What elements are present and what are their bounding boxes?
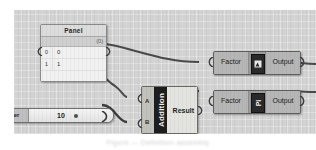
component-node-1[interactable]: Factor Output	[213, 51, 301, 75]
panel-node-title: Panel	[41, 25, 106, 37]
figure-caption: Figure — Definition assembly	[0, 136, 316, 150]
panel-output-port[interactable]	[105, 47, 112, 56]
component-node-2[interactable]: Factor Pi Output	[213, 90, 301, 114]
addition-node-title: Addition	[156, 93, 165, 127]
number-slider-label: ter	[14, 109, 29, 122]
pi-symbol-icon: Pi	[251, 93, 265, 113]
component-1-output-port[interactable]	[299, 57, 306, 66]
addition-input-a-port[interactable]	[136, 94, 143, 103]
addition-output-port[interactable]	[197, 106, 204, 115]
panel-node-count: (0)	[41, 37, 106, 47]
panel-row: 1 1	[41, 59, 106, 71]
node-editor-canvas[interactable]: Panel (0) 0 0 1 1 A	[14, 10, 316, 134]
addition-input-b-label: B	[145, 119, 149, 125]
addition-output-column: Result	[167, 87, 197, 133]
panel-row: 0 0	[41, 47, 106, 59]
component-1-output-label: Output	[265, 52, 300, 74]
component-2-mid-text: Pi	[255, 100, 262, 107]
addition-input-a-label: A	[145, 98, 149, 104]
number-slider-node[interactable]: ter 10	[14, 108, 114, 123]
component-1-input-label: Factor	[214, 52, 249, 74]
addition-output-label: Result	[173, 107, 194, 114]
component-2-output-label: Output	[265, 91, 300, 113]
panel-row-value: 0	[53, 47, 60, 58]
component-2-icon-slot: Pi	[249, 91, 265, 113]
image-thumbnail-icon-glyph	[255, 61, 262, 68]
number-slider-knob[interactable]	[74, 114, 78, 118]
component-1-icon-slot	[249, 52, 265, 74]
panel-node[interactable]: Panel (0) 0 0 1 1	[40, 24, 107, 82]
screenshot-root: Panel (0) 0 0 1 1 A	[0, 0, 316, 150]
image-thumbnail-icon	[251, 54, 265, 74]
addition-node-titlebar: Addition	[154, 87, 167, 133]
panel-row-index: 1	[41, 59, 53, 70]
addition-node[interactable]: A B Addition Result	[141, 86, 198, 134]
panel-node-body[interactable]: 0 0 1 1	[41, 47, 106, 81]
addition-input-b-port[interactable]	[136, 119, 143, 128]
number-slider-output-port[interactable]	[101, 111, 108, 120]
panel-input-port[interactable]	[36, 47, 43, 56]
component-1-input-port[interactable]	[207, 57, 214, 66]
panel-row-value: 1	[53, 59, 60, 70]
number-slider-value: 10	[57, 109, 65, 122]
component-2-output-port[interactable]	[299, 96, 306, 105]
component-2-input-label: Factor	[214, 91, 249, 113]
component-2-input-port[interactable]	[207, 96, 214, 105]
